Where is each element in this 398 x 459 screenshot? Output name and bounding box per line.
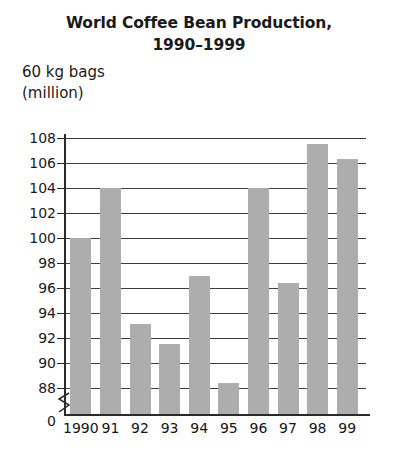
- y-tick-label: 96: [14, 281, 56, 295]
- y-tick-mark: [57, 138, 64, 139]
- x-tick-label: 99: [325, 421, 369, 436]
- y-tick-mark: [57, 213, 64, 214]
- bar: [130, 324, 151, 414]
- y-tick-label: 102: [14, 206, 56, 220]
- axis-break-icon: [55, 392, 71, 414]
- gridline: [64, 138, 366, 139]
- bar: [189, 276, 210, 415]
- y-tick-label: 100: [14, 231, 56, 245]
- bar: [218, 383, 239, 414]
- y-tick-label: 88: [14, 381, 56, 395]
- y-tick-mark: [57, 163, 64, 164]
- plot-area: 108106104102100989694929088 199091929394…: [0, 0, 398, 459]
- y-tick-mark: [57, 188, 64, 189]
- y-tick-label: 108: [14, 131, 56, 145]
- y-tick-label: 94: [14, 306, 56, 320]
- bar: [278, 283, 299, 414]
- y-tick-label: 98: [14, 256, 56, 270]
- bar: [248, 188, 269, 414]
- y-tick-mark: [57, 363, 64, 364]
- bar: [100, 188, 121, 414]
- y-tick-label: 92: [14, 331, 56, 345]
- bar: [159, 344, 180, 414]
- y-tick-label: 104: [14, 181, 56, 195]
- y-tick-label: 90: [14, 356, 56, 370]
- y-axis-line: [64, 134, 66, 414]
- y-tick-label-zero: 0: [16, 414, 56, 428]
- y-tick-label: 106: [14, 156, 56, 170]
- y-tick-mark: [57, 263, 64, 264]
- x-axis-line: [64, 414, 370, 416]
- bar: [337, 159, 358, 414]
- bar: [307, 144, 328, 414]
- y-tick-mark: [57, 288, 64, 289]
- bar: [70, 238, 91, 414]
- y-tick-mark: [57, 388, 64, 389]
- y-tick-mark: [57, 238, 64, 239]
- y-tick-mark: [57, 338, 64, 339]
- y-tick-mark: [57, 313, 64, 314]
